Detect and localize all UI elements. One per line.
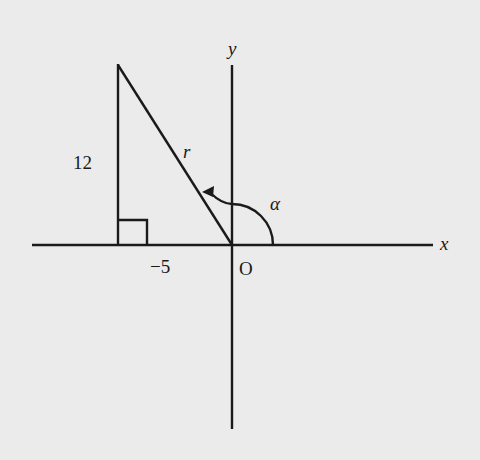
hypotenuse-label: r — [183, 141, 191, 162]
right-angle-marker — [118, 220, 147, 245]
triangle-hypotenuse — [118, 65, 232, 245]
origin-label: O — [239, 258, 253, 279]
horizontal-side-label: −5 — [150, 256, 170, 277]
vertical-side-label: 12 — [73, 152, 92, 173]
y-axis-label: y — [226, 38, 237, 59]
angle-label: α — [270, 193, 281, 214]
x-axis-label: x — [439, 233, 449, 254]
angle-arc — [211, 194, 273, 246]
coordinate-diagram: y x O 12 −5 r α — [0, 0, 480, 460]
angle-arrowhead-icon — [202, 186, 214, 197]
